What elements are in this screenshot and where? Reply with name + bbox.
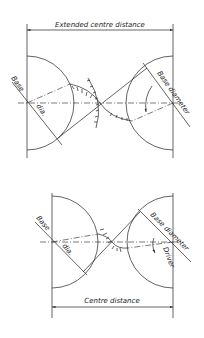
- dimension-label: Extended centre distance: [55, 21, 145, 29]
- driver-label: Driver: [161, 246, 176, 270]
- base-label: Base: [34, 214, 51, 232]
- dia-label: dia.: [60, 242, 74, 257]
- base-diameter-label: Base diameter: [155, 70, 191, 117]
- dimension-label: Centre distance: [84, 297, 139, 305]
- figure-extended-centre-distance: Extended centre distance Base dia. Base …: [9, 21, 191, 158]
- gear-diagram: Extended centre distance Base dia. Base …: [0, 0, 204, 338]
- figure-centre-distance: Centre distance Base dia. Base diameter …: [34, 193, 191, 318]
- base-label: Base: [9, 75, 25, 94]
- dia-label: dia.: [34, 103, 48, 118]
